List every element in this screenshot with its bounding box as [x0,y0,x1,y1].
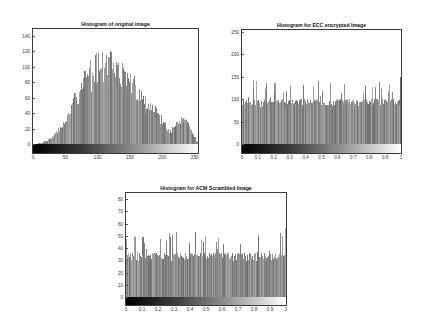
y-tick-mark [242,32,244,33]
x-tick-label: 50 [63,155,68,160]
y-tick-label: 60 [109,221,123,226]
y-tick-label: 60 [16,95,30,100]
chart-title: Histogram of original image [81,21,150,27]
x-tick-label: 0.1 [139,307,145,312]
x-tick-label: 0 [125,307,128,312]
x-tick-label: 150 [126,155,134,160]
y-tick-mark [126,248,128,249]
y-tick-label: 120 [16,49,30,54]
y-tick-label: 150 [225,74,239,79]
x-tick-label: 1 [400,155,403,160]
y-tick-mark [33,98,35,99]
histogram-bar [400,77,401,144]
y-tick-mark [33,51,35,52]
y-tick-label: 30 [109,258,123,263]
y-tick-mark [242,122,244,123]
x-tick-label: 0.2 [155,307,161,312]
x-tick-label: 0.3 [286,155,292,160]
y-tick-label: 140 [16,34,30,39]
x-tick-label: 0 [241,155,244,160]
x-tick-label: 0.7 [235,307,241,312]
y-tick-mark [242,77,244,78]
x-tick-label: 0.2 [271,155,277,160]
x-tick-label: 0.9 [267,307,273,312]
grayscale-colorbar [33,144,198,153]
x-tick-label: 1 [285,307,288,312]
x-tick-label: 0.6 [219,307,225,312]
plot-axes [241,29,402,154]
x-tick-label: 0.7 [350,155,356,160]
y-tick-mark [33,36,35,37]
bars-area [126,193,286,297]
y-tick-mark [126,199,128,200]
x-tick-label: 0.4 [187,307,193,312]
y-tick-mark [33,144,35,145]
x-tick-label: 250 [191,155,199,160]
bars-area [242,30,401,144]
plot-axes [125,192,287,306]
x-tick-label: 200 [159,155,167,160]
y-tick-label: 50 [225,119,239,124]
grayscale-colorbar [242,144,401,153]
y-tick-mark [126,297,128,298]
grayscale-colorbar [126,297,286,305]
y-tick-label: 40 [16,111,30,116]
x-tick-label: 0.1 [255,155,261,160]
y-tick-label: 10 [109,282,123,287]
y-tick-label: 0 [225,142,239,147]
y-tick-label: 0 [109,295,123,300]
y-tick-mark [33,129,35,130]
y-tick-label: 200 [225,52,239,57]
y-tick-label: 40 [109,246,123,251]
y-tick-label: 50 [109,233,123,238]
y-tick-label: 20 [109,270,123,275]
y-tick-mark [33,113,35,114]
y-tick-mark [33,67,35,68]
y-tick-label: 80 [109,197,123,202]
chart-title: Histogram for ACM Scrambled Image [160,185,251,191]
y-tick-label: 70 [109,209,123,214]
y-tick-mark [126,236,128,237]
y-tick-mark [242,144,244,145]
x-tick-label: 0.3 [171,307,177,312]
y-tick-label: 100 [16,64,30,69]
y-tick-mark [126,260,128,261]
bars-area [33,29,198,144]
histogram-bar [285,228,286,297]
y-tick-label: 80 [16,80,30,85]
x-tick-label: 0.5 [318,155,324,160]
x-tick-label: 0.8 [251,307,257,312]
x-tick-label: 0.6 [334,155,340,160]
x-tick-label: 100 [94,155,102,160]
y-tick-mark [33,82,35,83]
y-tick-mark [242,99,244,100]
y-tick-label: 100 [225,97,239,102]
x-tick-label: 0.5 [203,307,209,312]
x-tick-label: 0.4 [302,155,308,160]
y-tick-label: 0 [16,142,30,147]
chart-title: Histogram for ECC encrypted Image [277,22,366,28]
y-tick-mark [126,285,128,286]
plot-axes [32,28,199,154]
y-tick-label: 20 [16,126,30,131]
y-tick-mark [126,273,128,274]
x-tick-label: 0.9 [382,155,388,160]
y-tick-mark [126,211,128,212]
y-tick-label: 250 [225,30,239,35]
x-tick-label: 0 [32,155,35,160]
y-tick-mark [242,54,244,55]
x-tick-label: 0.8 [366,155,372,160]
y-tick-mark [126,224,128,225]
